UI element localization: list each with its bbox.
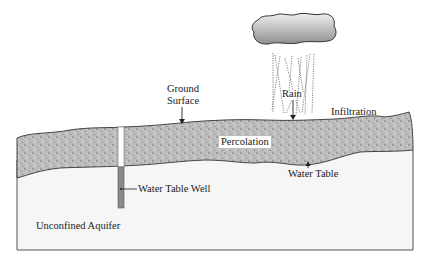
water-table-label: Water Table: [288, 168, 338, 180]
ground-surface-label: Ground Surface: [167, 83, 199, 107]
well-screen: [118, 167, 124, 208]
water-table-well: [118, 127, 124, 208]
ground-surface-label-line2: Surface: [167, 95, 199, 107]
well-casing: [118, 127, 124, 167]
unconfined-aquifer-label: Unconfined Aquifer: [36, 220, 120, 232]
water-table-well-label: Water Table Well: [138, 183, 210, 195]
ground-surface-label-line1: Ground: [167, 83, 199, 95]
rain-arrow: [290, 100, 296, 120]
infiltration-label: Infiltration: [331, 106, 377, 118]
percolation-label: Percolation: [219, 136, 271, 148]
cloud-icon: [252, 13, 336, 44]
rain-label: Rain: [282, 88, 302, 100]
ground-surface-arrow: [179, 107, 185, 124]
